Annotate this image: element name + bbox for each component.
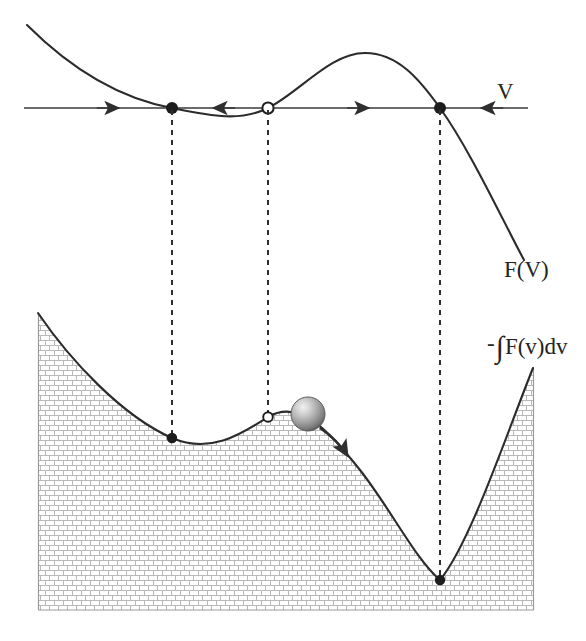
potential-label-body: F(v)dv <box>505 334 568 359</box>
rolling-ball <box>291 397 325 431</box>
v-axis-label: V <box>497 80 514 103</box>
brick-hatch-region <box>38 313 534 610</box>
potential-global-minimum <box>435 575 445 585</box>
top-panel-force-plot <box>24 25 528 260</box>
potential-label-minus-sign: - <box>487 331 495 356</box>
potential-local-minimum <box>167 433 177 443</box>
physics-diagram: V F(V) -∫F(v)dv <box>0 0 586 641</box>
potential-curve-label: -∫F(v)dv <box>487 329 568 359</box>
potential-local-maximum <box>263 412 273 422</box>
force-curve <box>27 25 524 260</box>
bottom-panel-potential <box>38 313 534 610</box>
force-curve-label: F(V) <box>504 258 549 281</box>
integral-icon: ∫ <box>495 330 505 363</box>
